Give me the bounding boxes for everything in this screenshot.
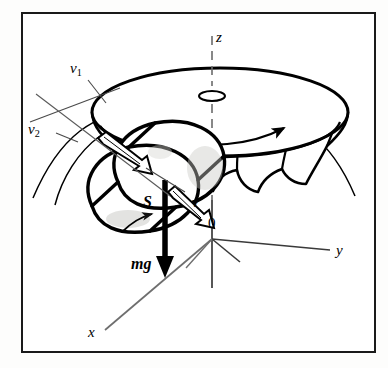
label-axis-x-text: x	[88, 324, 95, 340]
label-velocity-1-symbol: v	[70, 60, 77, 76]
label-velocity-prime-text: v′	[192, 195, 201, 210]
label-axis-z: z	[216, 30, 222, 45]
label-velocity-prime: v′	[192, 196, 201, 210]
label-weight-mg-text: mg	[131, 255, 151, 272]
label-weight-mg: mg	[131, 256, 151, 272]
label-spin-S: S	[143, 194, 152, 210]
label-axis-z-text: z	[216, 29, 222, 45]
label-axis-y-text: y	[336, 242, 343, 258]
figure-canvas	[0, 0, 388, 368]
axis-y	[212, 239, 330, 250]
label-velocity-1-subscript: 1	[77, 67, 82, 78]
label-origin-text: 0	[208, 215, 216, 231]
axis-x	[105, 239, 240, 330]
label-velocity-2-symbol: v	[28, 121, 35, 137]
center-hole-icon	[199, 91, 225, 101]
label-velocity-2-subscript: 2	[35, 128, 40, 139]
label-velocity-1: v1	[70, 61, 82, 78]
label-axis-y: y	[336, 243, 343, 258]
label-velocity-2: v2	[28, 122, 40, 139]
label-axis-x: x	[88, 325, 95, 340]
label-spin-S-text: S	[143, 193, 152, 210]
figure-root: z y x 0 v1 v2 v′ S mg	[0, 0, 388, 368]
label-origin: 0	[208, 216, 216, 231]
